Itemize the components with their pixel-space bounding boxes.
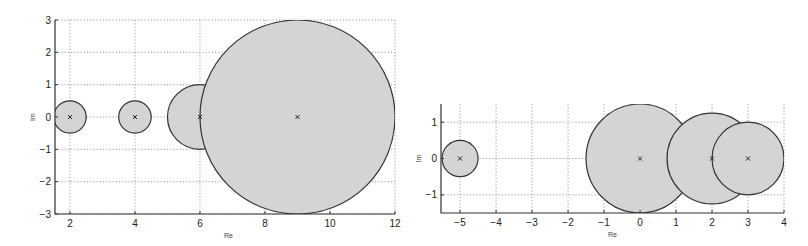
y-tick-label: 0 — [45, 112, 51, 123]
x-axis-label: Re — [224, 232, 233, 239]
x-tick-label: 4 — [781, 217, 787, 228]
x-tick-label: 0 — [637, 217, 643, 228]
y-tick-label: 1 — [45, 79, 51, 90]
y-tick-label: −1 — [426, 189, 438, 200]
x-tick-label: 8 — [262, 218, 268, 229]
disc-group — [54, 20, 395, 214]
x-tick-label: 4 — [132, 218, 138, 229]
x-tick-label: −4 — [490, 217, 502, 228]
y-tick-label: 1 — [431, 117, 437, 128]
x-tick-label: −3 — [526, 217, 538, 228]
x-tick-label: 12 — [389, 218, 401, 229]
x-tick-label: 3 — [745, 217, 751, 228]
x-tick-label: 2 — [67, 218, 73, 229]
y-tick-label: −3 — [40, 209, 52, 220]
plot-2: −5−4−3−2−101234−101ReIm — [415, 104, 787, 238]
y-tick-label: 2 — [45, 47, 51, 58]
x-tick-label: −2 — [562, 217, 574, 228]
plot-1: 24681012−3−2−10123ReIm — [29, 15, 401, 240]
y-tick-label: 0 — [431, 153, 437, 164]
y-axis-label: Im — [29, 113, 36, 121]
y-tick-label: −1 — [40, 144, 52, 155]
x-tick-label: −1 — [598, 217, 610, 228]
gershgorin-discs-figure: 24681012−3−2−10123ReIm−5−4−3−2−101234−10… — [0, 0, 808, 246]
x-axis-label: Re — [608, 231, 617, 238]
x-tick-label: −5 — [454, 217, 466, 228]
x-tick-label: 1 — [673, 217, 679, 228]
y-tick-label: 3 — [45, 15, 51, 26]
x-tick-label: 10 — [324, 218, 336, 229]
x-tick-label: 2 — [709, 217, 715, 228]
y-tick-label: −2 — [40, 176, 52, 187]
y-axis-label: Im — [415, 154, 422, 162]
x-tick-label: 6 — [197, 218, 203, 229]
